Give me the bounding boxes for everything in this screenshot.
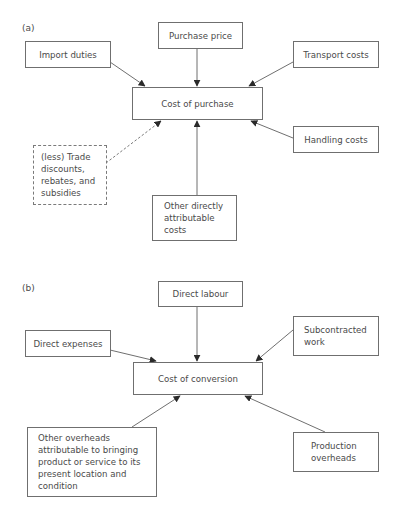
node-label: (less) Trade discounts, rebates, and sub… (41, 151, 95, 199)
arrow-subcontracted-work (256, 330, 293, 361)
node-label: Purchase price (169, 30, 232, 42)
node-other-overheads: Other overheads attributable to bringing… (27, 427, 157, 497)
diagram-a-label: (a) (22, 23, 35, 33)
arrow-import-duties (110, 62, 145, 86)
node-direct-labour: Direct labour (158, 281, 243, 307)
node-direct-expenses: Direct expenses (25, 330, 111, 357)
arrow-transport-costs (249, 62, 293, 86)
node-label: Import duties (39, 49, 97, 61)
center-label: Cost of conversion (158, 373, 238, 385)
node-label: Other directly attributable costs (164, 200, 223, 236)
node-production-overheads: Production overheads (293, 432, 379, 472)
node-label: Handling costs (304, 134, 367, 146)
center-cost-of-purchase: Cost of purchase (132, 87, 263, 120)
node-label: Subcontracted work (304, 324, 367, 348)
node-trade-discounts: (less) Trade discounts, rebates, and sub… (33, 145, 107, 205)
arrow-handling-costs (251, 121, 293, 138)
node-handling-costs: Handling costs (293, 126, 379, 153)
arrow-other-overheads (132, 396, 180, 427)
arrow-production-overheads (245, 396, 325, 432)
diagram-b-label: (b) (22, 283, 35, 293)
node-purchase-price: Purchase price (158, 22, 243, 49)
arrow-trade-discounts (106, 121, 161, 163)
node-import-duties: Import duties (25, 41, 111, 68)
node-label: Direct labour (173, 288, 229, 300)
node-transport-costs: Transport costs (293, 41, 379, 68)
node-other-direct-costs: Other directly attributable costs (152, 195, 237, 241)
node-label: Direct expenses (33, 338, 102, 350)
center-label: Cost of purchase (161, 98, 233, 110)
node-label: Other overheads attributable to bringing… (38, 432, 140, 492)
center-cost-of-conversion: Cost of conversion (133, 362, 263, 395)
node-label: Production overheads (311, 440, 357, 464)
arrow-direct-expenses (110, 350, 156, 361)
node-subcontracted-work: Subcontracted work (293, 316, 379, 356)
node-label: Transport costs (303, 49, 368, 61)
